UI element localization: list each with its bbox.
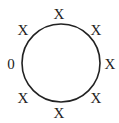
circle-diagram: XXXXXX0X <box>0 0 119 123</box>
label-left: 0 <box>7 57 15 72</box>
label-bottom-left: X <box>18 91 29 106</box>
label-bottom-right: X <box>91 91 102 106</box>
label-top-right: X <box>91 23 102 38</box>
label-bottom: X <box>54 106 65 121</box>
label-top-left: X <box>18 23 29 38</box>
label-right: X <box>105 57 116 72</box>
label-top: X <box>54 7 65 22</box>
